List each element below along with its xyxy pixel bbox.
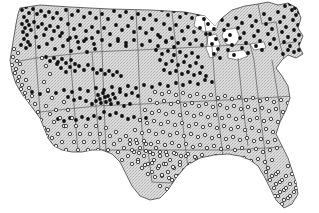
open-dot-marker bbox=[252, 139, 255, 142]
open-dot-marker bbox=[40, 143, 43, 146]
filled-dot-marker bbox=[130, 91, 134, 95]
open-dot-marker bbox=[192, 170, 195, 173]
filled-dot-marker bbox=[20, 8, 24, 12]
open-dot-marker bbox=[44, 147, 47, 150]
filled-dot-marker bbox=[158, 35, 162, 39]
filled-dot-marker bbox=[292, 50, 296, 54]
filled-dot-marker bbox=[134, 86, 138, 90]
open-dot-marker bbox=[266, 166, 269, 169]
open-dot-marker bbox=[266, 192, 269, 195]
filled-dot-marker bbox=[164, 62, 168, 66]
filled-dot-marker bbox=[94, 86, 98, 90]
open-dot-marker bbox=[38, 131, 41, 134]
open-dot-marker bbox=[142, 139, 145, 142]
open-dot-marker bbox=[274, 107, 277, 110]
filled-dot-marker bbox=[70, 13, 74, 17]
open-dot-marker bbox=[106, 148, 109, 151]
filled-dot-marker bbox=[286, 48, 290, 52]
filled-dot-marker bbox=[182, 60, 186, 64]
open-dot-marker bbox=[270, 174, 273, 177]
filled-dot-marker bbox=[158, 82, 162, 86]
filled-dot-marker bbox=[246, 51, 250, 55]
open-dot-marker bbox=[36, 110, 39, 113]
filled-dot-marker bbox=[40, 22, 44, 26]
filled-dot-marker bbox=[282, 40, 286, 44]
filled-dot-marker bbox=[54, 91, 58, 95]
open-dot-marker bbox=[34, 127, 37, 130]
open-dot-marker bbox=[40, 56, 43, 59]
filled-dot-marker bbox=[31, 7, 35, 11]
open-dot-marker bbox=[92, 140, 95, 143]
filled-dot-marker bbox=[50, 37, 54, 41]
open-dot-marker bbox=[282, 198, 285, 201]
open-dot-marker bbox=[208, 166, 211, 169]
open-dot-marker bbox=[188, 94, 191, 97]
open-dot-marker bbox=[206, 180, 209, 183]
open-dot-marker bbox=[146, 172, 149, 175]
open-dot-marker bbox=[243, 128, 246, 131]
open-dot-marker bbox=[296, 168, 299, 171]
open-dot-marker bbox=[48, 72, 51, 75]
open-dot-marker bbox=[257, 170, 260, 173]
filled-dot-marker bbox=[92, 114, 96, 118]
filled-dot-marker bbox=[297, 33, 301, 37]
open-dot-marker bbox=[174, 174, 177, 177]
filled-dot-marker bbox=[118, 14, 122, 18]
open-dot-marker bbox=[175, 131, 178, 134]
open-dot-marker bbox=[166, 170, 169, 173]
open-dot-marker bbox=[184, 195, 187, 198]
open-dot-marker bbox=[228, 155, 231, 158]
filled-dot-marker bbox=[76, 40, 80, 44]
open-dot-marker bbox=[174, 93, 177, 96]
open-dot-marker bbox=[137, 151, 140, 154]
open-dot-marker bbox=[164, 162, 167, 165]
filled-dot-marker bbox=[200, 65, 204, 69]
open-dot-marker bbox=[157, 109, 160, 112]
filled-dot-marker bbox=[142, 17, 146, 21]
open-dot-marker bbox=[200, 186, 203, 189]
open-dot-marker bbox=[94, 124, 97, 127]
filled-dot-marker bbox=[82, 15, 86, 19]
open-dot-marker bbox=[161, 130, 164, 133]
open-dot-marker bbox=[158, 150, 161, 153]
filled-dot-marker bbox=[30, 90, 34, 94]
open-dot-marker bbox=[219, 147, 222, 150]
filled-dot-marker bbox=[64, 61, 68, 65]
filled-dot-marker bbox=[42, 33, 46, 37]
filled-dot-marker bbox=[114, 111, 118, 115]
filled-dot-marker bbox=[108, 43, 112, 47]
open-dot-marker bbox=[212, 144, 215, 147]
open-dot-marker bbox=[15, 59, 18, 62]
filled-dot-marker bbox=[208, 32, 212, 36]
filled-dot-marker bbox=[124, 41, 128, 45]
filled-dot-marker bbox=[99, 101, 103, 105]
open-dot-marker bbox=[267, 109, 270, 112]
open-dot-marker bbox=[244, 166, 247, 169]
filled-dot-marker bbox=[78, 96, 82, 100]
open-dot-marker bbox=[276, 120, 279, 123]
filled-dot-marker bbox=[76, 9, 80, 13]
open-dot-marker bbox=[150, 170, 153, 173]
open-dot-marker bbox=[254, 168, 257, 171]
filled-dot-marker bbox=[73, 69, 77, 73]
open-dot-marker bbox=[66, 108, 69, 111]
open-dot-marker bbox=[51, 150, 54, 153]
filled-dot-marker bbox=[126, 117, 130, 121]
open-dot-marker bbox=[224, 162, 227, 165]
filled-dot-marker bbox=[136, 94, 140, 98]
filled-dot-marker bbox=[106, 17, 110, 21]
open-dot-marker bbox=[216, 96, 219, 99]
open-dot-marker bbox=[188, 175, 191, 178]
filled-dot-marker bbox=[124, 93, 128, 97]
open-dot-marker bbox=[150, 111, 153, 114]
filled-dot-marker bbox=[212, 52, 216, 56]
open-dot-marker bbox=[256, 157, 259, 160]
filled-dot-marker bbox=[115, 70, 119, 74]
filled-dot-marker bbox=[244, 41, 248, 45]
open-dot-marker bbox=[144, 149, 147, 152]
filled-dot-marker bbox=[136, 12, 140, 16]
open-dot-marker bbox=[283, 118, 286, 121]
open-dot-marker bbox=[120, 158, 123, 161]
filled-dot-marker bbox=[264, 22, 268, 26]
open-dot-marker bbox=[257, 129, 260, 132]
